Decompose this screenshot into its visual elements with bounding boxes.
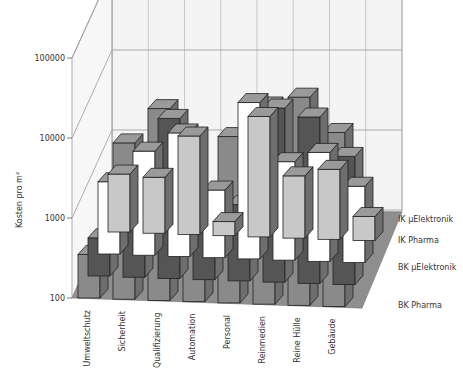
category-label: Umweltschutz — [83, 310, 92, 367]
category-label: Automation — [188, 314, 197, 361]
bar — [143, 168, 173, 233]
y-tick-label: 100 — [50, 294, 65, 303]
y-tick-label: 1000 — [45, 214, 65, 223]
category-label: Sicherheit — [118, 311, 127, 351]
bar — [248, 107, 278, 236]
category-label: Gebäude — [328, 318, 337, 354]
bar — [353, 207, 383, 240]
legend-label: IK Pharma — [398, 236, 439, 245]
legend-label: BK Pharma — [398, 301, 442, 310]
bar — [283, 167, 313, 238]
bar — [318, 160, 348, 239]
bar — [178, 127, 208, 234]
category-label: Qualifizierung — [153, 312, 162, 368]
chart-container: 100100010000100000Kosten pro m²Umweltsch… — [0, 0, 463, 380]
category-label: Reine Hülle — [293, 317, 302, 362]
bar — [213, 213, 243, 236]
category-label: Personal — [223, 315, 232, 349]
y-tick-label: 100000 — [34, 54, 65, 63]
bar — [108, 165, 138, 232]
y-tick-label: 10000 — [40, 134, 65, 143]
y-axis-label: Kosten pro m² — [15, 172, 24, 228]
bar-chart-3d: 100100010000100000Kosten pro m²Umweltsch… — [0, 0, 463, 380]
legend-label: IK µElektronik — [398, 215, 454, 224]
category-label: Reinmedien — [258, 316, 267, 363]
legend-label: BK µElektronik — [398, 263, 457, 272]
